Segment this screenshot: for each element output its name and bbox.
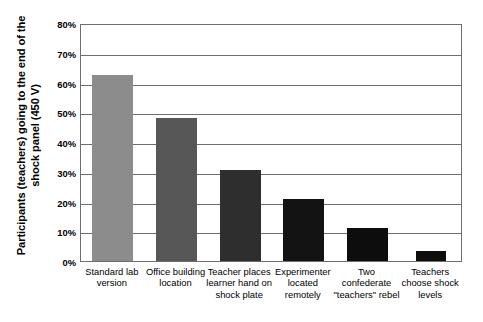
y-axis-title-line-2: shock panel (450 V) — [29, 15, 43, 255]
gridline — [81, 174, 461, 175]
y-tick-label: 80% — [42, 19, 76, 30]
y-tick-label: 50% — [42, 108, 76, 119]
y-tick-label: 10% — [42, 227, 76, 238]
bar — [347, 228, 388, 261]
y-axis-title-line-1: Participants (teachers) going to the end… — [16, 15, 30, 255]
bar — [416, 251, 446, 261]
x-tick-label: Teachers choose shock levels — [391, 266, 469, 300]
bar — [92, 75, 133, 261]
y-tick-label: 0% — [42, 257, 76, 268]
gridline — [81, 204, 461, 205]
y-tick-label: 20% — [42, 197, 76, 208]
bar-chart-figure: Participants (teachers) going to the end… — [0, 0, 483, 322]
y-tick-label: 70% — [42, 48, 76, 59]
bar — [220, 170, 261, 261]
y-tick-label: 30% — [42, 167, 76, 178]
gridline — [81, 55, 461, 56]
y-tick-label: 60% — [42, 78, 76, 89]
gridline — [81, 114, 461, 115]
y-tick-label: 40% — [42, 138, 76, 149]
gridline — [81, 233, 461, 234]
bar — [156, 118, 197, 261]
plot-area — [80, 24, 462, 262]
gridline — [81, 85, 461, 86]
gridline — [81, 144, 461, 145]
bar — [283, 199, 324, 261]
